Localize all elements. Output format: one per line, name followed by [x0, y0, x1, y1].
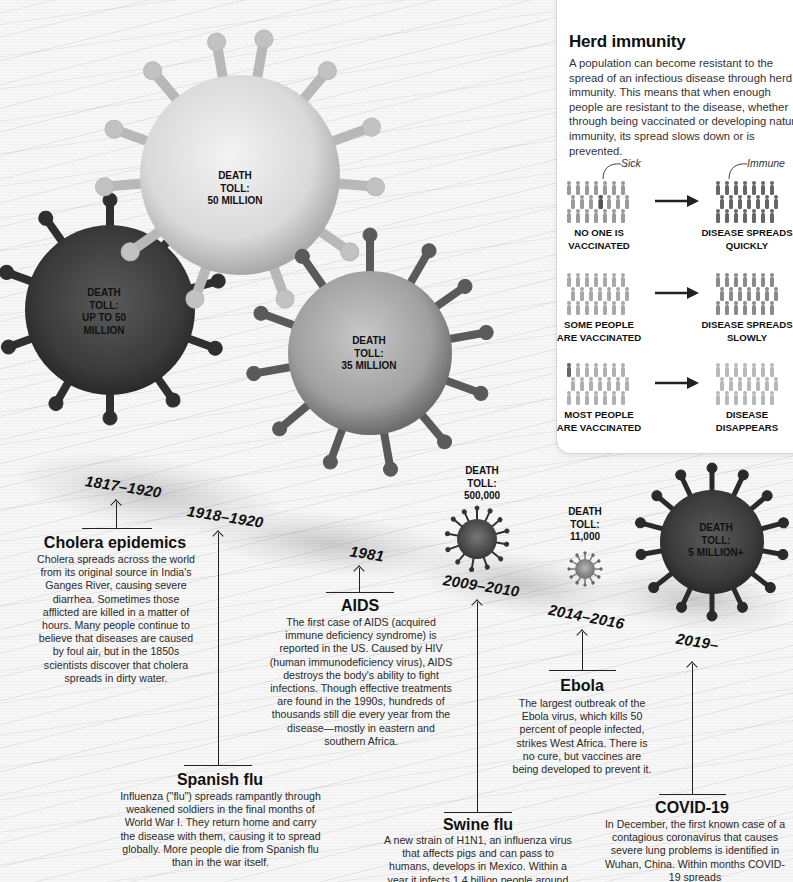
right-arrow-icon — [655, 287, 699, 299]
immune-callout: Immune — [747, 157, 785, 169]
caption-most-vaccinated: MOST PEOPLE ARE VACCINATED — [544, 409, 654, 434]
aids-title: AIDS — [300, 597, 420, 615]
aids-arrow-icon — [359, 568, 360, 592]
covid-19-death-toll: DEATH TOLL: 5 MILLION+ — [640, 522, 792, 560]
right-arrow-icon — [655, 195, 699, 207]
crowd-disease-disappears-icon — [712, 361, 782, 405]
herd-immunity-panel: Herd immunity A population can become re… — [556, 0, 793, 454]
covid-19-title: COVID-19 — [632, 799, 752, 817]
herd-row-no-vaccination: NO ONE IS VACCINATED DISEASE SPREADS QUI… — [557, 179, 793, 271]
swine-flu-description: A new strain of H1N1, an influenza virus… — [384, 834, 572, 882]
cholera-baseline — [82, 528, 152, 529]
spanish-flu-death-toll: DEATH TOLL: 50 MILLION — [85, 170, 385, 208]
caption-spreads-slowly: DISEASE SPREADS SLOWLY — [692, 319, 793, 344]
aids-virus-illustration: DEATH TOLL: 35 MILLION — [245, 228, 495, 478]
herd-row-most-vaccinated: MOST PEOPLE ARE VACCINATED DISEASE DISAP… — [557, 361, 793, 453]
caption-disease-disappears: DISEASE DISAPPEARS — [692, 409, 793, 434]
ebola-description: The largest outbreak of the Ebola virus,… — [512, 697, 652, 776]
cholera-title: Cholera epidemics — [40, 534, 190, 552]
herd-immunity-title: Herd immunity — [569, 32, 685, 52]
spanish-flu-title: Spanish flu — [145, 771, 295, 789]
herd-immunity-description: A population can become resistant to the… — [569, 56, 793, 158]
ebola-virus-illustration — [567, 551, 603, 587]
swine-flu-death-toll: DEATH TOLL: 500,000 — [447, 465, 517, 503]
caption-no-one-vaccinated: NO ONE IS VACCINATED — [544, 227, 654, 252]
aids-death-toll: DEATH TOLL: 35 MILLION — [243, 335, 495, 373]
swine-flu-title: Swine flu — [418, 816, 538, 834]
crowd-spreads-quickly-icon — [712, 179, 782, 223]
herd-row-some-vaccinated: SOME PEOPLE ARE VACCINATED DISEASE SPREA… — [557, 271, 793, 363]
sick-callout: Sick — [621, 157, 641, 169]
spanish-flu-description: Influenza ("flu") spreads rampantly thro… — [118, 790, 323, 869]
covid-19-description: In December, the first known case of a c… — [600, 818, 790, 882]
cholera-description: Cholera spreads across the world from it… — [36, 553, 196, 685]
ebola-title: Ebola — [532, 677, 632, 695]
spanish-flu-arrow-icon — [218, 533, 219, 765]
crowd-no-vaccination-icon — [563, 179, 633, 223]
swine-flu-arrow-icon — [477, 602, 478, 812]
covid-19-baseline — [659, 794, 726, 795]
ebola-baseline — [549, 670, 616, 671]
caption-spreads-quickly: DISEASE SPREADS QUICKLY — [692, 227, 793, 252]
covid-19-virus-illustration: DEATH TOLL: 5 MILLION+ — [632, 462, 792, 622]
ebola-death-toll: DEATH TOLL: 11,000 — [555, 506, 615, 544]
ebola-arrow-icon — [582, 632, 583, 670]
aids-description: The first case of AIDS (acquired immune … — [268, 616, 454, 748]
swine-flu-virus-illustration — [443, 505, 511, 573]
caption-some-vaccinated: SOME PEOPLE ARE VACCINATED — [544, 319, 654, 344]
swine-flu-baseline — [444, 812, 512, 813]
cholera-arrow-icon — [116, 502, 117, 528]
right-arrow-icon — [655, 377, 699, 389]
crowd-spreads-slowly-icon — [712, 271, 782, 315]
spanish-flu-baseline — [184, 765, 252, 766]
crowd-some-vaccinated-icon — [563, 271, 633, 315]
crowd-most-vaccinated-icon — [563, 361, 633, 405]
aids-baseline — [326, 592, 394, 593]
covid-19-arrow-icon — [692, 664, 693, 794]
